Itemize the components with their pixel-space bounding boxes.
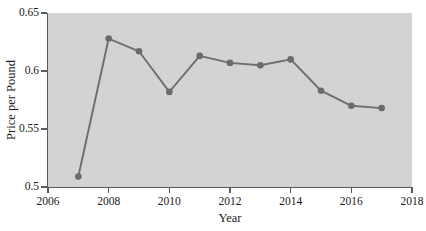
y-tick-mark (41, 186, 47, 187)
y-tick-mark (41, 70, 47, 71)
y-tick-mark (41, 12, 47, 13)
y-tick-label: 0.65 (19, 7, 39, 19)
x-tick-label: 2012 (219, 196, 242, 208)
data-point (227, 60, 234, 67)
x-tick-mark (108, 187, 109, 193)
y-tick-label: 0.6 (25, 65, 39, 77)
data-point (166, 89, 173, 96)
data-point (75, 173, 82, 180)
x-tick-mark (229, 187, 230, 193)
series-line (78, 39, 381, 177)
data-point (348, 103, 355, 110)
x-tick-label: 2018 (401, 196, 424, 208)
data-point (378, 105, 385, 112)
data-point (318, 87, 325, 94)
x-tick-mark (351, 187, 352, 193)
x-tick-label: 2006 (37, 196, 60, 208)
y-axis-title: Price per Pound (4, 60, 19, 140)
y-tick-label: 0.5 (25, 181, 39, 193)
x-tick-label: 2010 (158, 196, 181, 208)
y-tick-label: 0.55 (19, 123, 39, 135)
x-tick-mark (169, 187, 170, 193)
x-tick-mark (47, 187, 48, 193)
x-tick-label: 2014 (279, 196, 302, 208)
data-point (196, 53, 203, 60)
series-markers (75, 35, 385, 180)
x-tick-label: 2008 (97, 196, 120, 208)
x-tick-mark (290, 187, 291, 193)
y-axis-spine (47, 13, 48, 188)
x-axis-title: Year (218, 211, 241, 226)
data-point (287, 56, 294, 63)
y-tick-mark (41, 128, 47, 129)
x-tick-mark (411, 187, 412, 193)
chart-figure: 0.50.550.60.65 2006200820102012201420162… (0, 0, 426, 231)
x-tick-label: 2016 (340, 196, 363, 208)
data-point (257, 62, 264, 69)
plot-area (48, 13, 412, 187)
data-point (136, 48, 143, 55)
data-point (105, 35, 112, 42)
line-series-svg (48, 13, 412, 187)
